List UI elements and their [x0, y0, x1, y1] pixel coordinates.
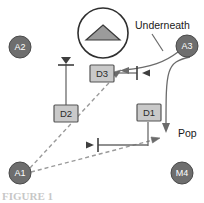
- label-underneath: Underneath: [135, 19, 190, 31]
- figure-caption-strip: FIGURE 1: [0, 190, 204, 203]
- store-D2[interactable]: D2: [54, 105, 78, 122]
- store-D1[interactable]: D1: [137, 104, 161, 121]
- arrowhead-pop: [162, 123, 170, 133]
- arrowhead-a1-d1: [151, 137, 160, 143]
- arrowhead-d2-top: [61, 57, 71, 64]
- actor-M4[interactable]: M4: [171, 162, 193, 184]
- connector-lower-horizontal: [86, 122, 148, 152]
- arrowhead-lower-row-outbound: [86, 142, 94, 149]
- connector-a1-to-d1: [31, 137, 160, 172]
- actor-A1-circle[interactable]: [9, 162, 31, 184]
- figure-caption-text: FIGURE 1: [2, 190, 53, 202]
- line-a3-pop: [166, 57, 190, 126]
- triangle-in-circle-icon: [78, 8, 128, 58]
- actor-A2-circle[interactable]: [9, 36, 31, 58]
- store-D3[interactable]: D3: [90, 65, 114, 82]
- leader-line-underneath: [152, 34, 163, 51]
- connector-d3-horizontal: [114, 66, 150, 80]
- diagram-svg: D3 D2 D1 A2 A3 A1 M4 Underneath: [0, 0, 204, 203]
- actor-A3-circle[interactable]: [176, 35, 198, 57]
- store-D1-box[interactable]: [137, 104, 161, 121]
- actor-A3[interactable]: A3: [176, 35, 198, 57]
- diagram-canvas: D3 D2 D1 A2 A3 A1 M4 Underneath: [0, 0, 204, 203]
- connector-d2-vertical: [58, 57, 74, 105]
- store-D3-box[interactable]: [90, 65, 114, 82]
- curve-a3-d3: [124, 52, 178, 70]
- actor-M4-circle[interactable]: [171, 162, 193, 184]
- label-pop: Pop: [178, 127, 197, 139]
- actor-A1[interactable]: A1: [9, 162, 31, 184]
- store-D2-box[interactable]: [54, 105, 78, 122]
- connector-a3-to-pop: [162, 57, 190, 133]
- actor-A2[interactable]: A2: [9, 36, 31, 58]
- arrowhead-d3-row-inbound: [142, 70, 150, 77]
- dashed-line-a1-d1: [31, 139, 157, 172]
